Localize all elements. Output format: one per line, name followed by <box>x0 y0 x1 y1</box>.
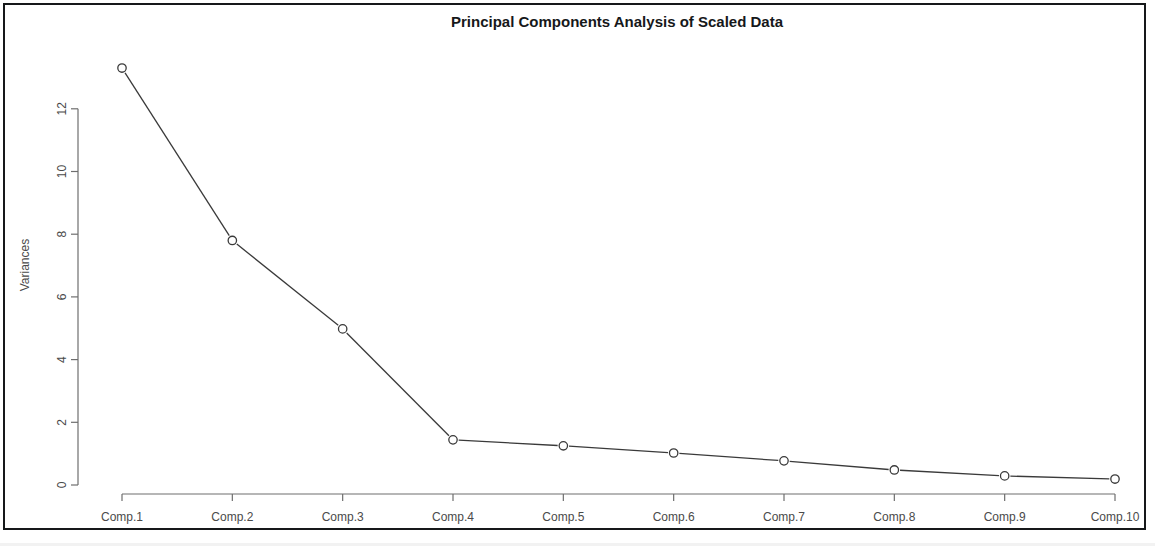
data-point-marker <box>449 436 457 444</box>
data-point-marker <box>1000 472 1008 480</box>
y-axis: 024681012 <box>55 102 78 489</box>
y-tick-label: 12 <box>55 102 69 116</box>
series-segment <box>1010 476 1109 479</box>
series-segment <box>125 73 229 236</box>
scree-plot-canvas: Principal Components Analysis of Scaled … <box>0 0 1155 546</box>
x-axis: Comp.1Comp.2Comp.3Comp.4Comp.5Comp.6Comp… <box>101 494 1140 524</box>
series-segment <box>790 461 889 469</box>
series-segment <box>347 333 449 436</box>
series-segment <box>679 453 778 460</box>
data-point-marker <box>559 442 567 450</box>
x-tick-label: Comp.9 <box>984 510 1026 524</box>
x-tick-label: Comp.2 <box>211 510 253 524</box>
y-tick-label: 0 <box>55 481 69 488</box>
x-tick-label: Comp.4 <box>432 510 474 524</box>
series-segment <box>900 470 999 475</box>
x-tick-label: Comp.7 <box>763 510 805 524</box>
y-tick-label: 10 <box>55 165 69 179</box>
variance-series <box>118 64 1119 483</box>
y-axis-label: Variances <box>18 239 32 291</box>
data-point-marker <box>890 466 898 474</box>
data-point-marker <box>338 325 346 333</box>
screenshot-root: Principal Components Analysis of Scaled … <box>0 0 1155 546</box>
y-tick-label: 2 <box>55 419 69 426</box>
x-tick-label: Comp.3 <box>322 510 364 524</box>
x-tick-label: Comp.6 <box>653 510 695 524</box>
series-segment <box>459 440 558 445</box>
x-tick-label: Comp.8 <box>873 510 915 524</box>
y-tick-label: 6 <box>55 293 69 300</box>
data-point-marker <box>1111 475 1119 483</box>
x-tick-label: Comp.5 <box>542 510 584 524</box>
chart-title: Principal Components Analysis of Scaled … <box>451 13 784 30</box>
y-tick-label: 8 <box>55 231 69 238</box>
x-tick-label: Comp.10 <box>1091 510 1140 524</box>
scree-plot: Principal Components Analysis of Scaled … <box>0 0 1155 546</box>
data-point-marker <box>780 457 788 465</box>
series-segment <box>237 244 338 325</box>
series-segment <box>569 446 668 452</box>
y-tick-label: 4 <box>55 356 69 363</box>
data-point-marker <box>669 449 677 457</box>
x-tick-label: Comp.1 <box>101 510 143 524</box>
data-point-marker <box>118 64 126 72</box>
data-point-marker <box>228 236 236 244</box>
